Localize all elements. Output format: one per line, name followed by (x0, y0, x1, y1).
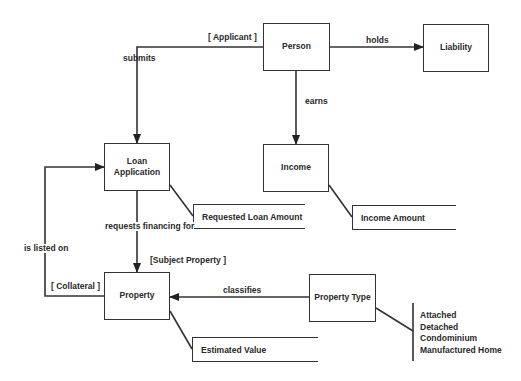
entity-property-label: Property (120, 290, 155, 301)
is-listed-on-connector (45, 167, 104, 296)
enum-value-condominium: Condominium (420, 333, 502, 345)
attribute-requested-loan-amount-label: Requested Loan Amount (202, 212, 302, 222)
entity-liability[interactable]: Liability (423, 24, 489, 72)
attribute-income-amount[interactable]: Income Amount (352, 205, 456, 230)
entity-loan-application-label-line2: Application (114, 167, 160, 178)
rel-classifies-label: classifies (223, 286, 261, 295)
enum-value-manufactured-home: Manufactured Home (420, 345, 502, 357)
entity-income-label: Income (281, 162, 311, 173)
role-applicant-label: [ Applicant ] (208, 33, 257, 42)
role-subject-property-label: [Subject Property ] (150, 256, 226, 265)
entity-person-label: Person (282, 41, 311, 52)
enum-value-detached: Detached (420, 322, 502, 334)
role-collateral-label: [ Collateral ] (51, 282, 100, 291)
property-type-enum-link (376, 308, 413, 331)
entity-income[interactable]: Income (263, 144, 329, 192)
entity-property-type[interactable]: Property Type (309, 274, 376, 322)
entity-property[interactable]: Property (104, 272, 170, 320)
income-attr-link (329, 185, 352, 217)
loan-attr-link (170, 185, 193, 216)
property-type-enumeration: Attached Detached Condominium Manufactur… (420, 310, 502, 356)
entity-person[interactable]: Person (263, 23, 330, 71)
attribute-estimated-value-label: Estimated Value (201, 345, 266, 355)
rel-submits-label: submits (123, 54, 156, 63)
attribute-requested-loan-amount[interactable]: Requested Loan Amount (193, 204, 305, 229)
rel-requests-financing-label: requests financing for (105, 222, 194, 231)
entity-loan-application[interactable]: Loan Application (104, 143, 170, 191)
attribute-income-amount-label: Income Amount (361, 213, 425, 223)
entity-property-type-label: Property Type (314, 292, 371, 303)
rel-holds-label: holds (366, 36, 389, 45)
rel-earns-label: earns (305, 97, 328, 106)
attribute-estimated-value[interactable]: Estimated Value (192, 337, 318, 362)
enum-value-attached: Attached (420, 310, 502, 322)
property-attr-link (170, 311, 192, 349)
rel-is-listed-on-label: is listed on (24, 244, 68, 253)
entity-liability-label: Liability (440, 42, 472, 53)
entity-loan-application-label-line1: Loan (127, 156, 147, 167)
